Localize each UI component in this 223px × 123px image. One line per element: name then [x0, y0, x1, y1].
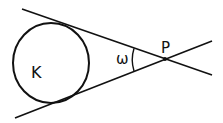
- point-p-dot: [163, 57, 167, 61]
- geometry-diagram: K P ω: [0, 0, 223, 123]
- point-label-p: P: [161, 39, 170, 57]
- circle-k: [13, 23, 89, 103]
- lower-tangent-line: [15, 41, 212, 118]
- angle-label-omega: ω: [116, 50, 129, 68]
- angle-arc: [132, 49, 134, 72]
- circle-label-k: K: [31, 63, 42, 82]
